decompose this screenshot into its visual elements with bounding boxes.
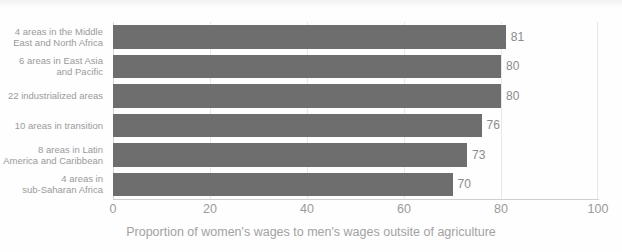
x-tick-0: 0 — [110, 202, 117, 216]
category-label-line: 6 areas in East Asia — [19, 55, 103, 66]
bar-row: 80 — [113, 81, 598, 111]
x-tick-100: 100 — [588, 202, 609, 216]
bar-row: 70 — [113, 170, 598, 200]
category-label-industrialized-areas: 22 industrialized areas — [0, 81, 107, 111]
category-label-line: East and North Africa — [13, 37, 103, 48]
x-axis-tick-labels: 0 20 40 60 80 100 — [0, 202, 622, 220]
category-label-line: 22 industrialized areas — [8, 90, 103, 101]
bar-sub-saharan-africa[interactable] — [113, 173, 453, 197]
bar-row: 80 — [113, 52, 598, 82]
category-label-line: 10 areas in transition — [15, 120, 103, 131]
category-label-line: 8 areas in Latin — [3, 144, 103, 155]
bar-middle-east-north-africa[interactable] — [113, 25, 506, 49]
x-tick-20: 20 — [203, 202, 217, 216]
bar-value-label: 81 — [506, 30, 524, 44]
x-axis-line — [113, 199, 599, 200]
bar-value-label: 76 — [482, 118, 500, 132]
bar-chart: 4 areas in the Middle East and North Afr… — [0, 0, 622, 252]
category-label-line: and Pacific — [19, 66, 103, 77]
x-tick-60: 60 — [397, 202, 411, 216]
bar-value-label: 70 — [453, 177, 471, 191]
bar-value-label: 73 — [467, 148, 485, 162]
bar-industrialized-areas[interactable] — [113, 84, 501, 108]
bar-row: 73 — [113, 140, 598, 170]
bar-value-label: 80 — [501, 59, 519, 73]
category-label-line: sub-Saharan Africa — [22, 184, 103, 195]
bar-row: 81 — [113, 22, 598, 52]
category-label-line: 4 areas in the Middle — [13, 26, 103, 37]
x-tick-80: 80 — [494, 202, 508, 216]
category-label-latin-america-caribbean: 8 areas in Latin America and Caribbean — [0, 140, 107, 170]
bar-row: 76 — [113, 111, 598, 141]
bar-areas-in-transition[interactable] — [113, 114, 482, 138]
image-top-edge — [0, 0, 622, 7]
category-label-middle-east-north-africa: 4 areas in the Middle East and North Afr… — [0, 22, 107, 52]
x-tick-40: 40 — [300, 202, 314, 216]
bar-east-asia-pacific[interactable] — [113, 55, 501, 79]
category-label-sub-saharan-africa: 4 areas in sub-Saharan Africa — [0, 170, 107, 200]
bar-latin-america-caribbean[interactable] — [113, 143, 467, 167]
category-label-line: America and Caribbean — [3, 155, 103, 166]
category-label-areas-in-transition: 10 areas in transition — [0, 111, 107, 141]
category-label-line: 4 areas in — [22, 173, 103, 184]
category-axis-labels: 4 areas in the Middle East and North Afr… — [0, 22, 107, 199]
x-axis-title: Proportion of women's wages to men's wag… — [0, 225, 622, 239]
bar-series: 81 80 80 76 73 70 — [113, 22, 598, 199]
category-label-east-asia-pacific: 6 areas in East Asia and Pacific — [0, 52, 107, 82]
bar-value-label: 80 — [501, 89, 519, 103]
